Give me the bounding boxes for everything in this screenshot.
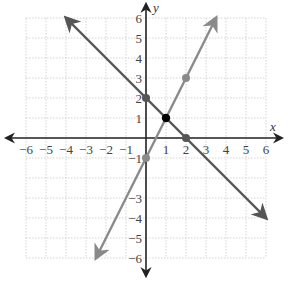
x-tick-label: −3 [79,142,93,157]
x-tick-label: 6 [263,142,270,157]
y-tick-label: −4 [128,211,142,226]
x-tick-label: 1 [163,142,170,157]
y-tick-label: 1 [136,111,143,126]
y-tick-label: 6 [136,11,143,26]
x-tick-label: −2 [99,142,113,157]
axes: xy−6−5−4−3−2−1123456654321−1−3−4−5−6 [6,0,282,276]
y-tick-label: −3 [128,191,142,206]
y-axis-label: y [151,0,159,15]
y-tick-label: 5 [136,31,143,46]
x-tick-label: −6 [19,142,33,157]
coordinate-graph: xy−6−5−4−3−2−1123456654321−1−3−4−5−6 [0,0,288,282]
x-tick-label: 4 [223,142,230,157]
x-tick-label: 5 [243,142,250,157]
y-tick-label: 3 [136,71,143,86]
data-point [182,134,190,142]
intersection-point [162,114,170,122]
graph-svg: xy−6−5−4−3−2−1123456654321−1−3−4−5−6 [0,0,288,282]
data-point [182,74,190,82]
y-tick-label: −1 [128,151,142,166]
x-tick-label: 2 [183,142,190,157]
data-point [142,154,150,162]
y-tick-label: −5 [128,231,142,246]
y-tick-label: 4 [136,51,143,66]
y-tick-label: −6 [128,251,142,266]
data-point [142,94,150,102]
x-tick-label: −4 [59,142,73,157]
x-tick-label: −5 [39,142,53,157]
x-axis-label: x [269,119,276,134]
